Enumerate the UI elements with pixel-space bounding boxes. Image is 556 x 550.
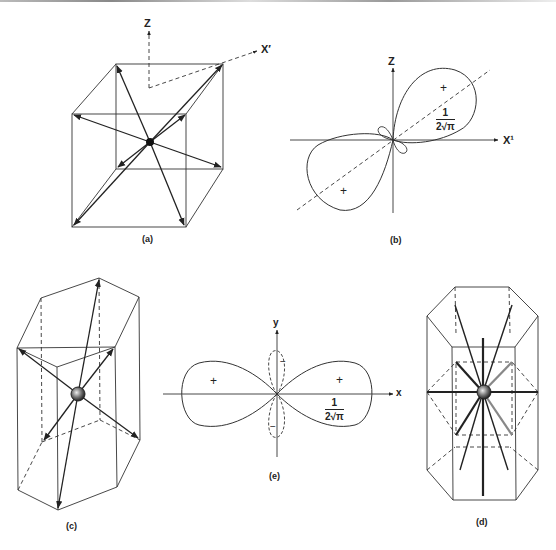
x-axis-label-e: x bbox=[396, 388, 402, 398]
caption-e: (e) bbox=[269, 472, 280, 481]
radius-label-b: 1 2√π bbox=[436, 108, 455, 132]
x-axis-a bbox=[149, 51, 257, 88]
lobe-sign-b-1: + bbox=[440, 82, 447, 94]
caption-c: (c) bbox=[66, 522, 77, 531]
radius-numerator-e: 1 bbox=[325, 398, 344, 410]
lobe-sign-e-4: − bbox=[270, 422, 276, 432]
central-atom-c bbox=[71, 387, 85, 401]
x-axis-label-b: X¹ bbox=[503, 135, 514, 146]
z-axis-label-a: Z bbox=[144, 18, 151, 29]
central-atom-d bbox=[477, 385, 491, 399]
x-axis-label-a: X′ bbox=[261, 44, 271, 55]
figure-canvas bbox=[0, 0, 556, 550]
radius-label-e: 1 2√π bbox=[325, 398, 344, 422]
caption-b: (b) bbox=[390, 236, 402, 245]
lobe-sign-e-1: + bbox=[210, 375, 217, 387]
panel-b-orbital-plot bbox=[290, 68, 498, 213]
panel-d-hexagonal-prism bbox=[427, 287, 538, 500]
caption-a: (a) bbox=[142, 235, 153, 244]
y-axis-label-e: y bbox=[273, 318, 279, 328]
radius-numerator-b: 1 bbox=[436, 108, 455, 120]
central-atom-a bbox=[146, 138, 154, 146]
panel-e-orbital-plot bbox=[163, 330, 393, 457]
radius-denominator-e: 2√π bbox=[325, 410, 344, 422]
panel-c-pentagonal-prism bbox=[17, 278, 140, 510]
z-axis-label-b: Z bbox=[388, 56, 395, 67]
radius-denominator-b: 2√π bbox=[436, 120, 455, 132]
lobe-sign-e-3: − bbox=[280, 357, 286, 367]
lobe-sign-e-2: + bbox=[336, 374, 343, 386]
caption-d: (d) bbox=[476, 518, 488, 527]
lobe-sign-b-2: + bbox=[340, 185, 347, 197]
panel-a-cube bbox=[72, 31, 257, 227]
